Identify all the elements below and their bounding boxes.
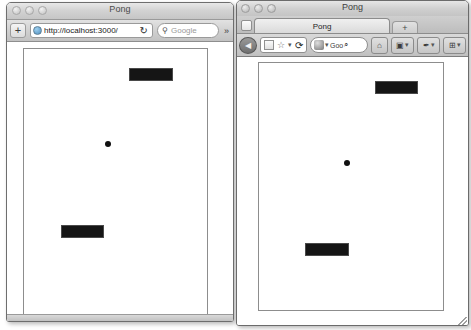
safari-pong-playfield[interactable] — [23, 48, 208, 317]
chevron-down-icon: ▾ — [457, 41, 461, 49]
grid-icon: ⊞ — [449, 41, 456, 50]
top-paddle[interactable] — [375, 81, 418, 94]
firefox-search-text: Goo — [330, 42, 343, 49]
firefox-pong-playfield[interactable] — [258, 62, 444, 311]
bottom-paddle[interactable] — [305, 243, 349, 256]
top-paddle[interactable] — [129, 68, 173, 81]
safari-status-bar — [7, 314, 233, 322]
safari-url-text: http://localhost:3000/ — [44, 26, 138, 35]
safari-title-bar[interactable]: Pong — [7, 3, 233, 20]
bookmark-star-icon[interactable]: ☆ — [277, 40, 285, 50]
search-icon: ⚲ — [162, 26, 168, 35]
pong-ball — [105, 141, 111, 147]
search-engine-chevron-icon[interactable]: ▾ — [325, 41, 329, 49]
reload-icon[interactable]: ⟳ — [295, 40, 303, 51]
safari-toolbar: + http://localhost:3000/ ↻ ⚲ Google » — [7, 20, 233, 42]
page-icon — [264, 40, 274, 50]
safari-window-title: Pong — [7, 4, 233, 14]
firefox-search-field[interactable]: ▾ Goo ⌕ — [310, 37, 368, 53]
firefox-window[interactable]: Pong Pong + ◀ ☆ ▾ ⟳ ▾ Goo ⌕ ⌂ ▣ ▾ ✒ ▾ ⊞ — [236, 0, 469, 326]
highlighter-button[interactable]: ✒ ▾ — [417, 37, 440, 54]
window-resize-handle[interactable] — [458, 317, 467, 326]
back-button[interactable]: ◀ — [239, 37, 257, 54]
chevron-down-icon: ▾ — [405, 41, 409, 49]
tab-pong[interactable]: Pong — [254, 18, 390, 33]
firefox-tab-bar: Pong + — [237, 16, 468, 34]
safari-window[interactable]: Pong + http://localhost:3000/ ↻ ⚲ Google… — [6, 2, 234, 322]
add-bookmark-button[interactable]: + — [10, 23, 26, 38]
firefox-toolbar: ◀ ☆ ▾ ⟳ ▾ Goo ⌕ ⌂ ▣ ▾ ✒ ▾ ⊞ ▾ — [237, 34, 468, 57]
firefox-window-title: Pong — [237, 2, 468, 12]
new-tab-button[interactable]: + — [392, 21, 418, 33]
screenshot-button[interactable]: ▣ ▾ — [391, 37, 414, 54]
firefox-title-bar[interactable]: Pong — [237, 1, 468, 16]
search-icon[interactable]: ⌕ — [344, 40, 348, 50]
safari-search-placeholder: Google — [171, 26, 197, 35]
camera-icon: ▣ — [396, 41, 404, 50]
reload-icon[interactable]: ↻ — [140, 25, 148, 36]
firefox-address-bar[interactable]: ☆ ▾ ⟳ — [260, 37, 307, 53]
pen-icon: ✒ — [423, 41, 430, 50]
firefox-content-area — [237, 57, 468, 326]
search-engine-icon[interactable] — [314, 40, 324, 50]
home-button[interactable]: ⌂ — [371, 37, 388, 54]
grid-button[interactable]: ⊞ ▾ — [443, 37, 466, 54]
bottom-paddle[interactable] — [61, 225, 104, 238]
safari-content-area — [7, 42, 233, 322]
globe-icon — [33, 26, 42, 35]
safari-search-field[interactable]: ⚲ Google — [157, 23, 219, 38]
chevron-down-icon[interactable]: ▾ — [288, 41, 292, 49]
pong-ball — [344, 160, 350, 166]
chevron-down-icon: ▾ — [431, 41, 435, 49]
toolbar-overflow-button[interactable]: » — [223, 26, 230, 36]
tab-list-icon[interactable] — [241, 20, 252, 31]
safari-address-bar[interactable]: http://localhost:3000/ ↻ — [30, 23, 153, 38]
